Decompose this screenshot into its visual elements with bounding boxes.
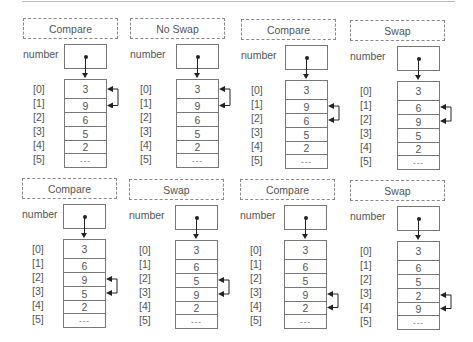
reference-pointer-line [85, 56, 86, 74]
array-cell-1: 9 [177, 99, 218, 113]
array-cell-4: 2 [286, 142, 327, 155]
array-index-label: [0] [140, 83, 152, 95]
array-cell-0: 3 [286, 81, 327, 100]
compare-arrow-icon [440, 292, 454, 312]
array-index-label: [2] [360, 113, 372, 125]
reference-pointer-line [196, 217, 197, 235]
array-index-label: [2] [140, 111, 152, 123]
reference-pointer-line [306, 57, 307, 75]
array-index-label: [3] [32, 285, 44, 297]
array-cell-0: 3 [398, 242, 439, 261]
array-cell-0: 3 [65, 80, 106, 99]
array-cell-5: --- [398, 156, 439, 169]
array-cell-2: 6 [177, 113, 218, 127]
pointer-arrowhead-icon [415, 75, 421, 80]
number-variable-label: number [22, 208, 62, 220]
number-variable-label: number [241, 49, 281, 61]
top-divider [22, 1, 455, 2]
pointer-arrowhead-icon [82, 73, 88, 78]
array-index-label: [5] [33, 153, 45, 165]
array-cell-0: 3 [177, 80, 218, 99]
array-cell-4: 2 [64, 301, 105, 314]
array-index-label: [1] [140, 97, 152, 109]
number-variable-label: number [240, 209, 280, 221]
array-index-label: [4] [33, 139, 45, 151]
array-index-label: [0] [360, 85, 372, 97]
array-cell-0: 3 [176, 241, 217, 260]
step-panel-7: Compare number 36592--- [0][1][2][3][4][… [240, 179, 340, 339]
step-panel-4: Swap number 36952--- [0][1][2][3][4][5] [350, 20, 450, 180]
array-box: 39652--- [176, 79, 219, 168]
array-cell-2: 5 [285, 274, 326, 288]
array-cell-3: 9 [176, 288, 217, 302]
array-index-label: [3] [250, 286, 262, 298]
array-cell-3: 5 [286, 128, 327, 142]
compare-arrow-icon [327, 291, 341, 311]
step-label: Swap [350, 20, 445, 41]
array-index-label: [1] [139, 258, 151, 270]
array-cell-1: 6 [398, 101, 439, 115]
array-cell-0: 3 [64, 240, 105, 259]
array-index-label: [5] [140, 153, 152, 165]
reference-pointer-line [197, 56, 198, 74]
array-cell-3: 5 [398, 129, 439, 143]
array-cell-1: 9 [286, 100, 327, 114]
array-index-label: [0] [360, 245, 372, 257]
pointer-arrowhead-icon [193, 234, 199, 239]
step-label: No Swap [130, 18, 225, 39]
step-panel-8: Swap number 36529--- [0][1][2][3][4][5] [350, 180, 450, 340]
array-cell-4: 9 [398, 303, 439, 316]
compare-arrow-icon [219, 86, 233, 109]
array-cell-2: 6 [286, 114, 327, 128]
array-cell-2: 9 [64, 273, 105, 287]
step-panel-6: Swap number 36592--- [0][1][2][3][4][5] [129, 179, 229, 339]
array-index-label: [2] [33, 111, 45, 123]
array-box: 36592--- [175, 240, 218, 329]
array-cell-1: 6 [64, 259, 105, 273]
array-index-label: [0] [139, 244, 151, 256]
array-box: 36529--- [397, 241, 440, 330]
compare-arrow-icon [440, 104, 454, 124]
array-box: 39652--- [285, 80, 328, 169]
compare-arrow-icon [328, 103, 342, 123]
array-cell-4: 2 [285, 302, 326, 315]
array-index-label: [4] [360, 141, 372, 153]
compare-arrow-icon [218, 277, 232, 297]
array-index-label: [1] [250, 258, 262, 270]
array-cell-4: 2 [177, 141, 218, 154]
array-index-label: [3] [360, 127, 372, 139]
array-index-label: [5] [32, 313, 44, 325]
number-variable-label: number [130, 48, 170, 60]
pointer-arrowhead-icon [302, 234, 308, 239]
array-index-label: [5] [360, 155, 372, 167]
array-cell-2: 9 [398, 115, 439, 129]
array-index-label: [5] [250, 314, 262, 326]
array-index-label: [3] [140, 125, 152, 137]
number-variable-label: number [350, 50, 390, 62]
array-box: 36592--- [284, 240, 327, 329]
array-cell-1: 6 [398, 261, 439, 275]
array-cell-1: 9 [65, 99, 106, 113]
array-cell-4: 2 [398, 143, 439, 156]
step-label: Compare [241, 19, 336, 40]
array-cell-4: 2 [65, 141, 106, 154]
array-cell-4: 2 [176, 302, 217, 315]
array-index-label: [0] [250, 244, 262, 256]
array-index-label: [0] [32, 243, 44, 255]
array-index-label: [1] [360, 99, 372, 111]
array-cell-3: 5 [177, 127, 218, 141]
array-index-label: [4] [32, 299, 44, 311]
array-index-label: [5] [139, 314, 151, 326]
pointer-arrowhead-icon [81, 233, 87, 238]
compare-arrow-icon [106, 276, 120, 296]
array-cell-5: --- [176, 315, 217, 328]
array-index-label: [2] [250, 272, 262, 284]
array-cell-5: --- [65, 154, 106, 167]
array-index-label: [3] [360, 287, 372, 299]
array-index-label: [3] [251, 126, 263, 138]
array-cell-0: 3 [285, 241, 326, 260]
array-index-label: [2] [139, 272, 151, 284]
array-index-label: [1] [33, 97, 45, 109]
array-index-label: [4] [250, 300, 262, 312]
array-box: 39652--- [64, 79, 107, 168]
